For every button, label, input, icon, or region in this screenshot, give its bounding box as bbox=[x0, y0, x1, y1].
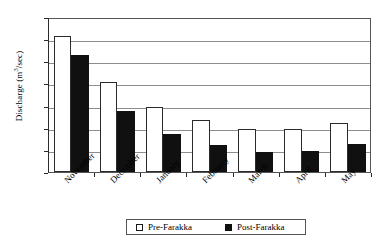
y-tick-mark-4000 bbox=[44, 84, 48, 85]
legend-swatch-pre-farakka-icon bbox=[136, 224, 143, 231]
bar-group-april bbox=[280, 19, 326, 172]
chart-figure: ˇ Discharge (m3/sec) 0100020003000400050… bbox=[0, 0, 381, 238]
bar-january-pre-farakka bbox=[146, 107, 164, 172]
legend-entry-post-farakka: Post-Farakka bbox=[225, 222, 285, 232]
bar-may-pre-farakka bbox=[330, 123, 348, 172]
legend-entry-pre-farakka: Pre-Farakka bbox=[136, 222, 192, 232]
y-tick-mark-2000 bbox=[44, 129, 48, 130]
x-tick-mark-1 bbox=[140, 173, 141, 177]
y-tick-mark-0 bbox=[44, 173, 48, 174]
bar-february-pre-farakka bbox=[192, 120, 210, 172]
bar-group-may bbox=[326, 19, 372, 172]
plot-area bbox=[48, 18, 371, 173]
y-axis-title-superscript: 3 bbox=[12, 68, 19, 71]
bar-november-pre-farakka bbox=[54, 36, 72, 172]
y-tick-mark-3000 bbox=[44, 107, 48, 108]
legend-swatch-post-farakka-icon bbox=[225, 224, 232, 231]
x-tick-mark-0 bbox=[94, 173, 95, 177]
bar-december-pre-farakka bbox=[100, 82, 118, 172]
y-axis-title-prefix: Discharge (m bbox=[14, 72, 24, 122]
bar-series-container bbox=[49, 19, 370, 172]
x-tick-mark-6 bbox=[371, 173, 372, 177]
y-tick-mark-6000 bbox=[44, 40, 48, 41]
x-tick-mark-3 bbox=[233, 173, 234, 177]
title-remnant: ˇ bbox=[150, 0, 154, 3]
y-axis-title: Discharge (m3/sec) bbox=[12, 26, 24, 146]
x-tick-mark-5 bbox=[325, 173, 326, 177]
legend-label-pre-farakka: Pre-Farakka bbox=[148, 222, 192, 232]
bar-group-november bbox=[49, 19, 95, 172]
y-tick-mark-5000 bbox=[44, 62, 48, 63]
chart-legend: Pre-Farakka Post-Farakka bbox=[126, 219, 306, 235]
bar-group-january bbox=[141, 19, 187, 172]
x-tick-mark-4 bbox=[279, 173, 280, 177]
y-tick-mark-7000 bbox=[44, 18, 48, 19]
bar-group-march bbox=[234, 19, 280, 172]
bar-group-december bbox=[95, 19, 141, 172]
x-tick-mark-2 bbox=[186, 173, 187, 177]
bar-march-pre-farakka bbox=[238, 129, 256, 172]
y-tick-mark-1000 bbox=[44, 151, 48, 152]
bar-group-february bbox=[187, 19, 233, 172]
legend-label-post-farakka: Post-Farakka bbox=[237, 222, 285, 232]
y-axis-title-suffix: /sec) bbox=[14, 51, 24, 69]
bar-april-pre-farakka bbox=[284, 129, 302, 172]
